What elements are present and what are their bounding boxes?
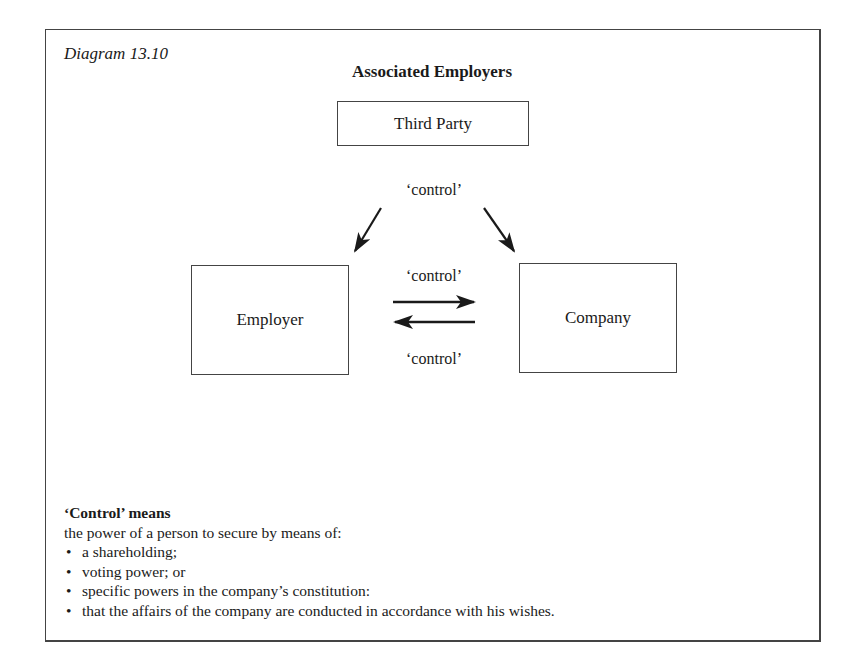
definition-intro: the power of a person to secure by means… <box>64 523 555 543</box>
definition-list: a shareholding; voting power; or specifi… <box>64 542 555 620</box>
definition-item: that the affairs of the company are cond… <box>64 601 555 621</box>
definition-item: a shareholding; <box>64 542 555 562</box>
definition-heading: ‘Control’ means <box>64 503 555 523</box>
arrow-third-party-to-employer <box>355 208 381 251</box>
arrow-third-party-to-company <box>484 208 514 251</box>
definition-item: specific powers in the company’s constit… <box>64 581 555 601</box>
control-definition: ‘Control’ means the power of a person to… <box>64 503 555 620</box>
definition-item: voting power; or <box>64 562 555 582</box>
